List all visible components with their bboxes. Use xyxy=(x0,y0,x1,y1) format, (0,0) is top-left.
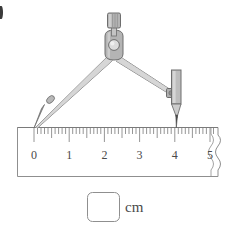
ruler-label-3: 3 xyxy=(137,148,143,162)
answer-input-box[interactable] xyxy=(88,193,120,222)
compass-needle-arm xyxy=(36,56,113,128)
ruler-label-1: 1 xyxy=(66,148,72,162)
needle-joint-nub xyxy=(45,94,56,105)
ruler-label-0: 0 xyxy=(31,148,37,162)
compass-pencil-arm xyxy=(116,56,173,95)
ruler-group: 0 1 2 3 4 5 xyxy=(18,128,221,177)
ruler-label-2: 2 xyxy=(101,148,107,162)
hinge-pivot-circle xyxy=(109,40,120,51)
illustration-canvas: 0 1 2 3 4 5 xyxy=(0,0,237,228)
answer-group: cm xyxy=(88,193,144,222)
ruler-body xyxy=(18,128,221,177)
ruler-label-5: 5 xyxy=(207,148,213,162)
ruler-label-4: 4 xyxy=(172,148,178,162)
knurled-adjustment-knob xyxy=(108,13,121,28)
pencil-lead-tip xyxy=(172,70,182,128)
worksheet-page: 0 1 2 3 4 5 xyxy=(0,0,237,228)
answer-unit-label: cm xyxy=(125,199,144,215)
compass-group xyxy=(34,13,181,128)
